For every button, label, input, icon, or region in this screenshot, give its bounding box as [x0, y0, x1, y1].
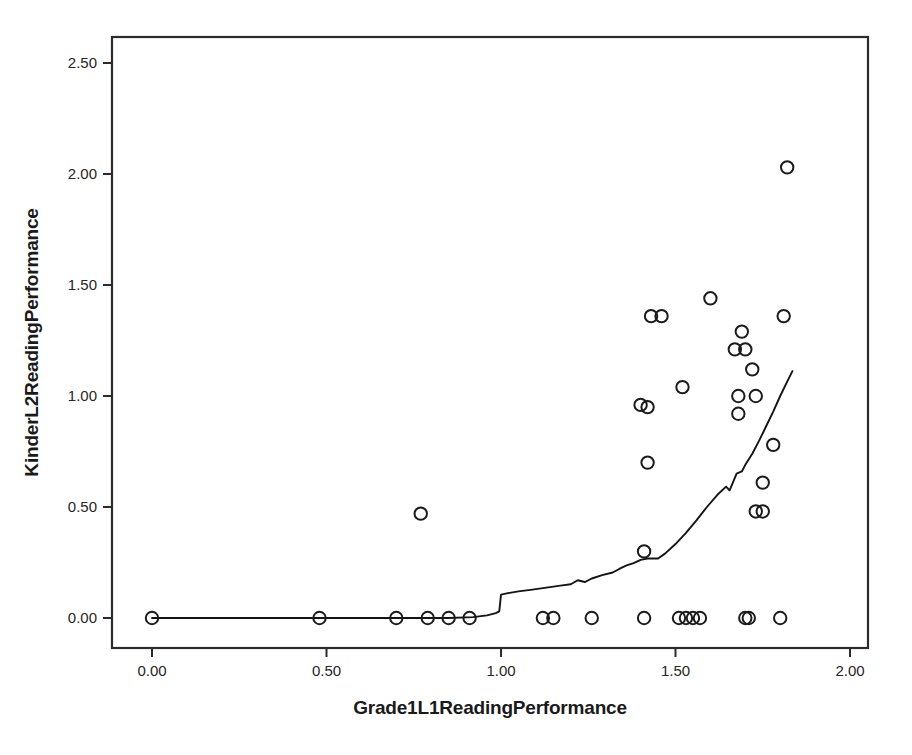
scatter-point: [641, 401, 653, 413]
fit-line-group: [152, 371, 792, 618]
scatter-point: [781, 161, 793, 173]
plot-border: [112, 37, 868, 648]
scatter-point: [767, 439, 779, 451]
plot-canvas: 0.000.501.001.502.002.50 0.000.501.001.5…: [0, 0, 912, 755]
scatter-point: [777, 310, 789, 322]
y-tick-label: 1.50: [68, 276, 97, 293]
x-tick-label: 1.50: [661, 662, 690, 679]
y-tick-label: 2.50: [68, 54, 97, 71]
scatter-plot-figure: 0.000.501.001.502.002.50 0.000.501.001.5…: [0, 0, 912, 755]
scatter-point: [638, 545, 650, 557]
scatter-point: [736, 325, 748, 337]
y-axis-title: KinderL2ReadingPerformance: [21, 208, 42, 476]
scatter-point: [704, 292, 716, 304]
x-tick-label: 0.00: [137, 662, 166, 679]
scatter-point: [641, 456, 653, 468]
scatter-point: [676, 381, 688, 393]
x-axis-title: Grade1L1ReadingPerformance: [353, 697, 627, 718]
scatter-point: [415, 507, 427, 519]
scatter-point: [732, 390, 744, 402]
plot-frame: [112, 37, 868, 648]
scatter-point: [774, 612, 786, 624]
scatter-point: [638, 612, 650, 624]
x-tick-label: 1.00: [486, 662, 515, 679]
x-tick-label: 2.00: [835, 662, 864, 679]
scatter-point: [586, 612, 598, 624]
scatter-point: [732, 408, 744, 420]
x-tick-label: 0.50: [312, 662, 341, 679]
scatter-points-group: [146, 161, 794, 624]
y-axis: 0.000.501.001.502.002.50: [68, 54, 112, 626]
y-tick-label: 1.00: [68, 387, 97, 404]
x-axis: 0.000.501.001.502.00: [137, 648, 864, 679]
y-tick-label: 0.00: [68, 609, 97, 626]
y-tick-label: 0.50: [68, 498, 97, 515]
loess-fit-line: [152, 371, 792, 618]
scatter-point: [757, 476, 769, 488]
scatter-point: [750, 390, 762, 402]
scatter-point: [746, 363, 758, 375]
y-tick-label: 2.00: [68, 165, 97, 182]
